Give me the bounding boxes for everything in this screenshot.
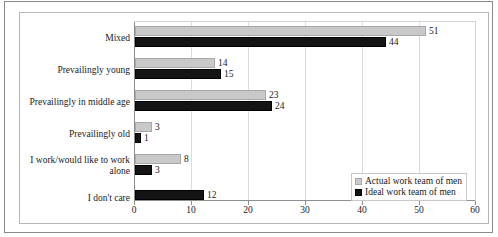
legend-item-actual[interactable]: Actual work team of men [355, 176, 462, 187]
xtick-label-60: 60 [460, 205, 490, 215]
bar-value-ideal-work-alone: 3 [155, 165, 160, 175]
xtick-label-20: 20 [233, 205, 263, 215]
bar-actual-mixed [135, 26, 426, 36]
bar-ideal-work-alone [135, 165, 152, 175]
bar-value-actual-mixed: 51 [429, 26, 439, 36]
figure: Mixed Prevailingly young Prevailingly in… [0, 0, 498, 237]
category-label-work-alone: I work/would like to work alone [20, 155, 130, 177]
gridline-30 [305, 22, 306, 201]
xtick-label-30: 30 [290, 205, 320, 215]
category-label-prevailingly-middle-age: Prevailingly in middle age [20, 97, 130, 108]
bar-value-actual-prevailingly-middle-age: 23 [269, 90, 279, 100]
bar-ideal-mixed [135, 37, 386, 47]
bar-value-actual-prevailingly-young: 14 [218, 58, 228, 68]
figure-outer-border: Mixed Prevailingly young Prevailingly in… [4, 1, 493, 233]
category-label-prevailingly-young: Prevailingly young [20, 65, 130, 76]
xtick-label-50: 50 [404, 205, 434, 215]
bar-actual-prevailingly-middle-age [135, 90, 266, 100]
bar-actual-prevailingly-young [135, 58, 215, 68]
category-label-mixed: Mixed [20, 33, 130, 44]
bar-ideal-prevailingly-middle-age [135, 101, 272, 111]
xtick-label-0: 0 [119, 205, 149, 215]
chart-legend: Actual work team of men Ideal work team … [351, 173, 467, 201]
bar-actual-work-alone [135, 154, 181, 164]
bar-ideal-prevailingly-young [135, 69, 221, 79]
bar-value-actual-work-alone: 8 [184, 154, 189, 164]
legend-swatch-ideal-icon [355, 189, 362, 196]
category-label-dont-care: I don't care [20, 193, 130, 204]
category-label-prevailingly-old: Prevailingly old [20, 129, 130, 140]
xtick-label-10: 10 [176, 205, 206, 215]
bar-value-ideal-mixed: 44 [389, 37, 399, 47]
bar-value-ideal-prevailingly-old: 1 [144, 133, 149, 143]
bar-value-ideal-dont-care: 12 [207, 190, 217, 200]
gridline-20 [248, 22, 249, 201]
bar-value-ideal-prevailingly-young: 15 [224, 69, 234, 79]
chart-plot-frame: Mixed Prevailingly young Prevailingly in… [19, 12, 489, 224]
legend-label-ideal: Ideal work team of men [365, 187, 456, 198]
gridline-10 [191, 22, 192, 201]
legend-label-actual: Actual work team of men [365, 176, 462, 187]
bar-value-actual-prevailingly-old: 3 [155, 122, 160, 132]
bar-actual-prevailingly-old [135, 122, 152, 132]
legend-swatch-actual-icon [355, 178, 362, 185]
bar-value-ideal-prevailingly-middle-age: 24 [275, 101, 285, 111]
bar-ideal-prevailingly-old [135, 133, 141, 143]
legend-item-ideal[interactable]: Ideal work team of men [355, 187, 462, 198]
bar-ideal-dont-care [135, 190, 204, 200]
xtick-label-40: 40 [347, 205, 377, 215]
